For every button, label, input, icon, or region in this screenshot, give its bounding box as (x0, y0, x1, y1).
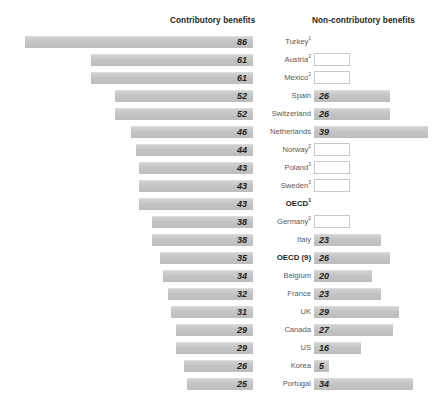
non-contributory-cell: 26 (314, 87, 441, 105)
contributory-value-label: 29 (237, 342, 247, 354)
contributory-cell: 29 (0, 339, 253, 357)
contributory-cell: 32 (0, 285, 253, 303)
non-contributory-cell (314, 69, 441, 87)
column-header-contributory: Contributory benefits (170, 16, 255, 25)
contributory-value-label: 38 (237, 216, 247, 228)
footnote-marker: 3 (308, 161, 311, 167)
non-contributory-cell: 34 (314, 375, 441, 393)
contributory-value-label: 52 (237, 90, 247, 102)
country-label: Turkey1 (256, 36, 311, 48)
contributory-cell: 31 (0, 303, 253, 321)
country-label: Switzerland (256, 108, 311, 120)
non-contributory-cell: 20 (314, 267, 441, 285)
country-label: Sweden3 (256, 180, 311, 192)
non-contributory-empty-box (314, 179, 350, 192)
contributory-cell: 46 (0, 123, 253, 141)
contributory-cell: 61 (0, 69, 253, 87)
contributory-cell: 43 (0, 159, 253, 177)
contributory-value-label: 38 (237, 234, 247, 246)
contributory-cell: 44 (0, 141, 253, 159)
chart-row: 35OECD (9)26 (0, 249, 441, 267)
contributory-cell: 38 (0, 213, 253, 231)
non-contributory-empty-box (314, 161, 350, 174)
non-contributory-value-label: 23 (319, 288, 329, 300)
contributory-bar (25, 36, 253, 48)
contributory-cell: 43 (0, 195, 253, 213)
non-contributory-empty-box (314, 53, 350, 66)
non-contributory-cell: 27 (314, 321, 441, 339)
footnote-marker: 2 (308, 143, 311, 149)
footnote-marker: 2 (308, 53, 311, 59)
non-contributory-cell: 16 (314, 339, 441, 357)
country-label: Korea (256, 360, 311, 372)
non-contributory-cell (314, 51, 441, 69)
non-contributory-empty-box (314, 215, 350, 228)
footnote-marker: 3 (308, 179, 311, 185)
country-label: Canada (256, 324, 311, 336)
contributory-cell: 26 (0, 357, 253, 375)
chart-row: 29Canada27 (0, 321, 441, 339)
contributory-bar (136, 144, 253, 156)
contributory-bar (115, 90, 253, 102)
non-contributory-cell: 26 (314, 249, 441, 267)
contributory-bar (131, 126, 253, 138)
non-contributory-value-label: 29 (319, 306, 329, 318)
country-label: Poland3 (256, 162, 311, 174)
chart-container: Contributory benefits Non-contributory b… (0, 0, 441, 401)
country-label: Norway2 (256, 144, 311, 156)
chart-row: 38Italy23 (0, 231, 441, 249)
country-label: Germany2 (256, 216, 311, 228)
chart-row: 44Norway2 (0, 141, 441, 159)
non-contributory-cell: 26 (314, 105, 441, 123)
chart-row: 86Turkey1 (0, 33, 441, 51)
contributory-cell: 25 (0, 375, 253, 393)
contributory-cell: 34 (0, 267, 253, 285)
non-contributory-value-label: 26 (319, 252, 329, 264)
chart-row: 25Portugal34 (0, 375, 441, 393)
non-contributory-value-label: 27 (319, 324, 329, 336)
non-contributory-cell: 39 (314, 123, 441, 141)
chart-row: 52Switzerland26 (0, 105, 441, 123)
contributory-bar (139, 198, 253, 210)
contributory-bar (91, 54, 253, 66)
country-label: OECD1 (256, 198, 311, 210)
chart-row: 34Belgium20 (0, 267, 441, 285)
contributory-value-label: 34 (237, 270, 247, 282)
country-label: OECD (9) (256, 252, 311, 264)
chart-row: 43Poland3 (0, 159, 441, 177)
column-header-non-contributory: Non-contributory benefits (312, 16, 415, 25)
chart-row: 32France23 (0, 285, 441, 303)
country-label: Netherlands (256, 126, 311, 138)
non-contributory-value-label: 39 (319, 126, 329, 138)
contributory-cell: 52 (0, 105, 253, 123)
contributory-bar (91, 72, 253, 84)
country-label: Portugal (256, 378, 311, 390)
contributory-bar (115, 108, 253, 120)
non-contributory-value-label: 26 (319, 108, 329, 120)
non-contributory-empty-box (314, 71, 350, 84)
contributory-cell: 43 (0, 177, 253, 195)
contributory-value-label: 46 (237, 126, 247, 138)
contributory-bar (139, 162, 253, 174)
non-contributory-value-label: 16 (319, 342, 329, 354)
contributory-value-label: 44 (237, 144, 247, 156)
country-label: Belgium (256, 270, 311, 282)
contributory-value-label: 26 (237, 360, 247, 372)
contributory-value-label: 29 (237, 324, 247, 336)
contributory-bar (139, 180, 253, 192)
contributory-value-label: 86 (237, 36, 247, 48)
chart-row: 61Mexico2 (0, 69, 441, 87)
footnote-marker: 2 (308, 215, 311, 221)
non-contributory-value-label: 20 (319, 270, 329, 282)
footnote-marker: 1 (308, 35, 311, 41)
chart-row: 31UK29 (0, 303, 441, 321)
chart-row: 61Austria2 (0, 51, 441, 69)
country-label: Spain (256, 90, 311, 102)
chart-row: 26Korea5 (0, 357, 441, 375)
country-label: France (256, 288, 311, 300)
non-contributory-value-label: 34 (319, 378, 329, 390)
non-contributory-cell (314, 33, 441, 51)
non-contributory-cell (314, 141, 441, 159)
non-contributory-cell: 23 (314, 231, 441, 249)
footnote-marker: 2 (308, 71, 311, 77)
